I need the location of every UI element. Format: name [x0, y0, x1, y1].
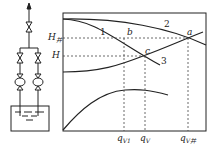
parallel-pump-diagram: 1 2 3 b a c H并 H qV1 qV qV并: [0, 0, 214, 147]
tank-icon: [11, 106, 49, 131]
point-label-c: c: [145, 46, 150, 56]
curve-label-3: 3: [161, 56, 167, 66]
pump-icon: [33, 78, 43, 86]
x-label-qV1: qV1: [117, 133, 131, 144]
flow-arrow-icon: [27, 3, 31, 9]
point-label-b: b: [127, 27, 133, 37]
graph: 1 2 3 b a c H并 H qV1 qV qV并: [47, 13, 206, 144]
y-label-H-parallel: H并: [47, 32, 63, 43]
point-label-a: a: [187, 27, 192, 37]
x-label-qV: qV: [140, 133, 151, 144]
graph-frame: [63, 13, 206, 131]
curve-label-2: 2: [164, 19, 170, 29]
pump-schematic: [11, 3, 49, 131]
efficiency-curve: [63, 90, 168, 130]
pump-icon: [15, 78, 25, 86]
y-label-H: H: [51, 50, 60, 60]
x-label-qV-parallel: qV并: [180, 133, 197, 144]
curve-label-1: 1: [100, 27, 106, 37]
